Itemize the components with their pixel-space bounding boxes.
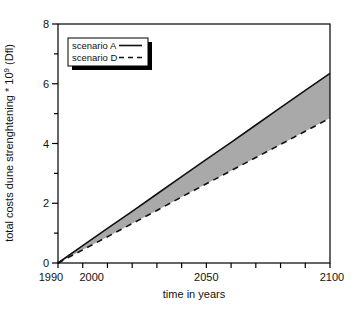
y-tick-label: 4 (43, 138, 49, 150)
x-tick-label: 2100 (320, 271, 344, 283)
series-line-scenario-a (58, 73, 330, 263)
legend-label-scenario-a: scenario A (72, 40, 117, 51)
x-axis-title: time in years (163, 288, 226, 300)
legend: scenario A scenario D (68, 38, 152, 70)
y-tick-label: 0 (43, 257, 49, 269)
x-tick-label: 2050 (194, 271, 218, 283)
series-line-scenario-d (58, 118, 330, 263)
y-axis-title-main: total costs dune strenghtening * 10 (3, 72, 15, 241)
legend-label-scenario-d: scenario D (72, 52, 118, 63)
chart-figure: 199020002050210002468 time in years tota… (0, 0, 360, 320)
y-tick-label: 6 (43, 78, 49, 90)
chart-canvas: 199020002050210002468 time in years tota… (0, 0, 360, 320)
y-tick-label: 2 (43, 197, 49, 209)
x-tick-label: 1990 (39, 271, 63, 283)
y-tick-label: 8 (43, 18, 49, 30)
y-axis-title-unit: (Dfl) (3, 44, 15, 68)
series-layer (58, 73, 330, 263)
y-axis-title: total costs dune strenghtening * 109 (Df… (2, 44, 15, 242)
x-tick-label: 2000 (79, 271, 103, 283)
